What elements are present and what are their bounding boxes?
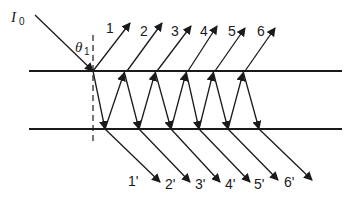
interference-diagram: I 0 θ 1 1 2 3 4 5 6 1' 2' 3' 4' 5' 6' xyxy=(0,0,354,197)
svg-text:2: 2 xyxy=(140,23,148,39)
incident-ray xyxy=(35,15,93,71)
reflected-rays xyxy=(93,23,275,71)
incident-intensity-label: I 0 xyxy=(10,9,25,27)
svg-text:5: 5 xyxy=(228,23,236,39)
svg-text:1: 1 xyxy=(106,20,114,36)
internal-reflections xyxy=(93,71,259,129)
svg-text:1: 1 xyxy=(84,46,90,57)
svg-text:4: 4 xyxy=(200,23,208,39)
svg-text:4': 4' xyxy=(225,176,235,192)
svg-text:3: 3 xyxy=(171,23,179,39)
svg-text:3': 3' xyxy=(195,176,205,192)
svg-text:6: 6 xyxy=(257,23,265,39)
reflected-labels: 1 2 3 4 5 6 xyxy=(106,20,265,39)
svg-text:0: 0 xyxy=(19,16,25,27)
svg-text:I: I xyxy=(10,9,17,25)
svg-text:6': 6' xyxy=(284,174,294,190)
svg-text:θ: θ xyxy=(75,39,83,55)
svg-text:2': 2' xyxy=(165,176,175,192)
svg-text:1': 1' xyxy=(128,173,138,189)
svg-text:5': 5' xyxy=(254,176,264,192)
angle-label: θ 1 xyxy=(75,39,90,57)
